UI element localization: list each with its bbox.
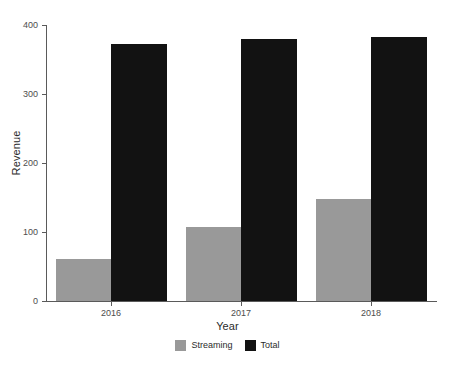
- legend-item-total[interactable]: Total: [245, 340, 280, 351]
- y-tick-mark: [42, 163, 46, 164]
- x-tick-mark: [111, 302, 112, 306]
- bar-total-2018: [371, 37, 427, 300]
- x-tick-label: 2018: [361, 308, 381, 319]
- x-tick-label: 2016: [101, 308, 121, 319]
- x-axis-title: Year: [0, 320, 455, 332]
- x-tick-mark: [241, 302, 242, 306]
- chart-legend: StreamingTotal: [0, 340, 455, 351]
- legend-swatch-icon: [175, 340, 186, 351]
- y-tick-mark: [42, 301, 46, 302]
- bar-streaming-2016: [56, 259, 112, 301]
- y-tick-label: 0: [33, 296, 38, 306]
- y-tick-label: 200: [23, 158, 38, 168]
- legend-swatch-icon: [245, 340, 256, 351]
- legend-label: Streaming: [191, 340, 232, 351]
- y-tick-mark: [42, 94, 46, 95]
- x-tick-mark: [371, 302, 372, 306]
- y-tick-mark: [42, 25, 46, 26]
- bar-chart: 0100200300400 201620172018 Revenue Year …: [0, 0, 455, 369]
- bar-total-2016: [111, 44, 167, 301]
- y-tick-mark: [42, 232, 46, 233]
- x-tick-label: 2017: [231, 308, 251, 319]
- plot-area: [46, 25, 436, 301]
- bar-streaming-2017: [186, 227, 242, 301]
- y-axis-title: Revenue: [10, 83, 22, 223]
- bar-streaming-2018: [316, 199, 372, 301]
- y-tick-label: 100: [23, 227, 38, 237]
- y-tick-label: 400: [23, 20, 38, 30]
- legend-item-streaming[interactable]: Streaming: [175, 340, 232, 351]
- y-tick-label: 300: [23, 89, 38, 99]
- legend-label: Total: [261, 340, 280, 351]
- bar-total-2017: [241, 39, 297, 301]
